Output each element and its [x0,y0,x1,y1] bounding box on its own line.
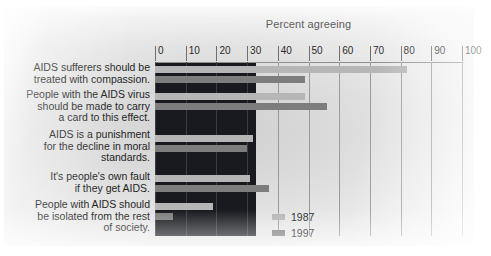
chart-figure: Percent agreeing AIDS sufferers should b… [0,0,491,256]
paper-vignette [0,0,491,256]
